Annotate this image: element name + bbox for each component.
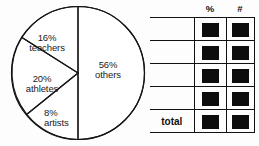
tally-table: total bbox=[150, 17, 255, 133]
pie-label-athletes: 20% athletes bbox=[13, 74, 71, 95]
table-row bbox=[150, 87, 254, 110]
black-square-blot-icon bbox=[202, 46, 219, 60]
cell-number[interactable] bbox=[226, 64, 254, 87]
table-row bbox=[150, 41, 254, 64]
row-label[interactable] bbox=[150, 41, 194, 64]
black-square-blot-icon bbox=[202, 92, 219, 106]
tally-table-panel: % # bbox=[150, 0, 259, 146]
cell-number[interactable] bbox=[226, 41, 254, 64]
table-row bbox=[150, 18, 254, 41]
cell-percent[interactable] bbox=[194, 64, 226, 87]
black-square-blot-icon bbox=[202, 115, 219, 129]
column-header-number: # bbox=[226, 3, 254, 14]
cell-number-total[interactable] bbox=[226, 110, 254, 133]
pie-label-others-name: others bbox=[95, 69, 121, 80]
cell-percent[interactable] bbox=[194, 41, 226, 64]
black-square-blot-icon bbox=[232, 69, 249, 83]
pie-label-artists-name: artists bbox=[44, 117, 69, 128]
black-square-blot-icon bbox=[232, 92, 249, 106]
pie-label-teachers: 16% teachers bbox=[18, 33, 76, 54]
cell-percent[interactable] bbox=[194, 18, 226, 41]
row-label[interactable] bbox=[150, 18, 194, 41]
pie-chart: 56% others 16% teachers 20% athletes 8% … bbox=[0, 0, 150, 146]
pie-label-teachers-name: teachers bbox=[29, 42, 65, 53]
column-header-percent: % bbox=[194, 3, 226, 14]
cell-number[interactable] bbox=[226, 18, 254, 41]
row-label[interactable] bbox=[150, 87, 194, 110]
black-square-blot-icon bbox=[232, 23, 249, 37]
table-row bbox=[150, 64, 254, 87]
cell-percent[interactable] bbox=[194, 87, 226, 110]
row-label-total[interactable]: total bbox=[150, 110, 194, 133]
cell-percent-total[interactable] bbox=[194, 110, 226, 133]
pie-label-artists: 8% artists bbox=[44, 108, 88, 129]
cell-number[interactable] bbox=[226, 87, 254, 110]
black-square-blot-icon bbox=[232, 115, 249, 129]
black-square-blot-icon bbox=[202, 23, 219, 37]
row-label[interactable] bbox=[150, 64, 194, 87]
worksheet-figure: 56% others 16% teachers 20% athletes 8% … bbox=[0, 0, 259, 146]
black-square-blot-icon bbox=[202, 69, 219, 83]
table-row-total: total bbox=[150, 110, 254, 133]
pie-label-athletes-name: athletes bbox=[26, 83, 58, 94]
black-square-blot-icon bbox=[232, 46, 249, 60]
pie-label-others: 56% others bbox=[85, 60, 131, 81]
